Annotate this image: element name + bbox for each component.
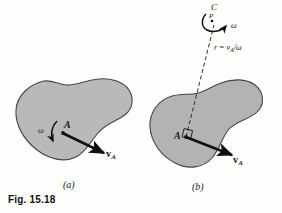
omega-label-a: ω bbox=[38, 127, 44, 135]
instant-center-label: C bbox=[211, 3, 217, 12]
rigid-body-shape-b bbox=[150, 80, 263, 167]
point-a-label-b: A bbox=[174, 131, 181, 141]
rigid-body-shape-a bbox=[16, 79, 132, 160]
instant-center-point-marker bbox=[211, 20, 214, 23]
velocity-label-a: vA bbox=[106, 149, 116, 161]
velocity-subscript-b: A bbox=[238, 159, 243, 167]
omega-arc-arrow-b bbox=[202, 14, 226, 31]
panel-a-group bbox=[16, 79, 132, 160]
radius-formula-label: r = vA/ω bbox=[214, 44, 242, 53]
point-a-label: A bbox=[64, 120, 71, 130]
panel-b-group bbox=[150, 14, 263, 167]
figure-caption: Fig. 15.18 bbox=[8, 195, 56, 205]
instant-center-point-label: P bbox=[209, 13, 213, 20]
panel-label-a: (a) bbox=[63, 180, 75, 190]
panel-label-b: (b) bbox=[192, 182, 204, 192]
velocity-subscript-a: A bbox=[111, 153, 116, 161]
radius-formula-head: r = v bbox=[214, 43, 230, 52]
figure-container: ω A vA (a) C P ω r = vA/ω A vA (b) Fig. … bbox=[0, 0, 282, 213]
velocity-label-b: vA bbox=[233, 155, 243, 167]
radius-formula-tail: /ω bbox=[234, 43, 242, 52]
figure-drawing-canvas bbox=[0, 0, 282, 213]
omega-label-b: ω bbox=[231, 22, 237, 30]
